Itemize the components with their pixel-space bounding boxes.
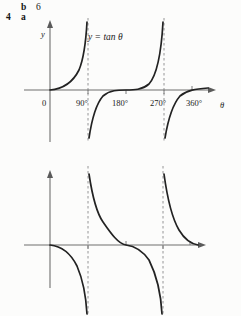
- cot-branch-2: [89, 174, 162, 314]
- tan-x-axis-arrow: [208, 87, 216, 93]
- tan-y-axis-arrow: [47, 20, 53, 28]
- cot-branch-3: [164, 174, 198, 245]
- tan-equation-label: y = tan θ: [88, 32, 123, 42]
- tan-graph: y = tan θ y θ 0 90° 180° 270° 360°: [0, 14, 241, 142]
- cot-branch-1: [50, 245, 87, 314]
- figure-page: b 6 4 a y = tan θ y: [0, 0, 241, 316]
- tan-tick-label-180: 180°: [112, 98, 128, 108]
- label-number-6: 6: [36, 3, 41, 13]
- tan-tick-label-270: 270°: [150, 98, 166, 108]
- tan-tick-label-90: 90°: [76, 98, 88, 108]
- tan-tick-label-0: 0: [42, 98, 46, 108]
- tan-tick-label-360: 360°: [186, 98, 202, 108]
- tan-x-axis-label: θ: [220, 100, 224, 110]
- tan-branch-3: [165, 88, 208, 138]
- tan-branch-1: [50, 22, 87, 90]
- cot-y-axis-arrow: [47, 170, 53, 178]
- cot-x-axis-arrow: [198, 242, 206, 248]
- tan-y-axis-label: y: [41, 29, 45, 39]
- cot-graph: y = cot(θ + 90) y θ 0 90 180 270 360: [0, 160, 241, 316]
- cot-graph-canvas: [0, 160, 241, 316]
